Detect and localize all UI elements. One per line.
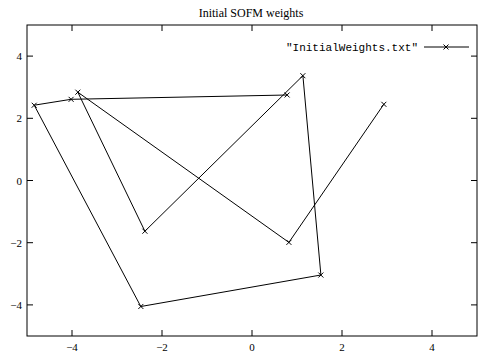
- axis-ticks: −4−2024−4−2024: [10, 25, 477, 353]
- y-tick-label: 4: [17, 50, 23, 62]
- point-marker-icon: [142, 229, 147, 234]
- legend-label: "InitialWeights.txt": [286, 42, 418, 54]
- y-tick-label: −2: [10, 237, 22, 249]
- point-marker-icon: [286, 240, 291, 245]
- point-marker-icon: [75, 90, 80, 95]
- y-tick-label: 2: [17, 112, 23, 124]
- series-line: [34, 76, 384, 307]
- data-series: [32, 73, 387, 309]
- y-tick-label: −4: [10, 299, 22, 311]
- plot-frame: [27, 25, 477, 336]
- chart-title: Initial SOFM weights: [199, 6, 304, 20]
- point-marker-icon: [381, 102, 386, 107]
- x-tick-label: 0: [249, 341, 255, 353]
- legend: "InitialWeights.txt": [286, 42, 469, 54]
- y-tick-label: 0: [17, 175, 23, 187]
- x-tick-label: −2: [156, 341, 168, 353]
- x-tick-label: −4: [66, 341, 78, 353]
- x-tick-label: 2: [339, 341, 345, 353]
- x-tick-label: 4: [429, 341, 435, 353]
- chart: Initial SOFM weights −4−2024−4−2024 "Ini…: [0, 0, 488, 359]
